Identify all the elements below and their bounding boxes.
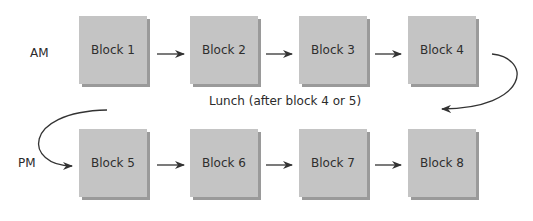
pm-label: PM — [18, 156, 36, 170]
am-label: AM — [30, 46, 49, 60]
block-2: Block 2 — [190, 16, 258, 84]
block-3: Block 3 — [299, 16, 367, 84]
block-7: Block 7 — [299, 129, 367, 197]
block-6: Block 6 — [190, 129, 258, 197]
block-1: Block 1 — [79, 16, 147, 84]
block-8: Block 8 — [408, 129, 476, 197]
block-4: Block 4 — [408, 16, 476, 84]
lunch-note: Lunch (after block 4 or 5) — [209, 94, 361, 108]
block-5: Block 5 — [79, 129, 147, 197]
